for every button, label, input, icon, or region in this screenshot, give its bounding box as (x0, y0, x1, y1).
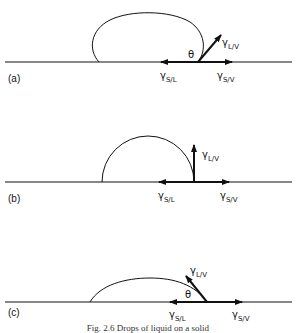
gamma-sl-label: γS/L (158, 190, 175, 204)
theta-label: θ (188, 49, 194, 60)
figure-caption: Fig. 2.6 Drops of liquid on a solid (87, 323, 210, 333)
gamma-sl-label: γS/L (160, 70, 177, 84)
gamma-sl-label: γS/L (169, 309, 186, 323)
panel-label: (c) (8, 307, 20, 318)
panel-c: θ γL/V γS/L γS/V (c) (5, 265, 292, 323)
gamma-sv-label: γS/V (232, 309, 250, 323)
liquid-drop (102, 136, 194, 182)
gamma-lv-label: γL/V (190, 265, 207, 279)
gamma-sv-label: γS/V (220, 190, 238, 204)
panel-label: (b) (8, 193, 20, 204)
wetting-diagram: θ γL/V γS/L γS/V (a) γL/V γS/L γS/V (b) … (0, 0, 297, 333)
theta-label: θ (185, 289, 191, 300)
liquid-drop (92, 13, 203, 62)
arrow-gamma-lv (198, 35, 221, 62)
gamma-lv-label: γL/V (222, 37, 239, 51)
panel-a: θ γL/V γS/L γS/V (a) (5, 13, 292, 84)
panel-b: γL/V γS/L γS/V (b) (5, 136, 292, 204)
panel-label: (a) (8, 73, 20, 84)
gamma-sv-label: γS/V (217, 70, 235, 84)
gamma-lv-label: γL/V (202, 149, 219, 163)
